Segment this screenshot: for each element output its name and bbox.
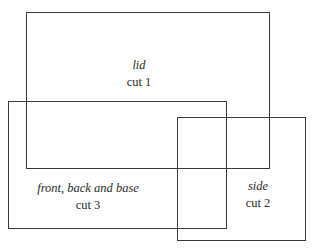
front-back-base-name: front, back and base — [37, 180, 139, 197]
lid-name: lid — [127, 57, 152, 74]
lid-label: lid cut 1 — [127, 57, 152, 91]
side-rectangle — [177, 117, 306, 241]
side-label: side cut 2 — [246, 178, 271, 212]
lid-cut: cut 1 — [127, 74, 152, 91]
front-back-base-cut: cut 3 — [37, 197, 139, 214]
front-back-base-label: front, back and base cut 3 — [37, 180, 139, 214]
side-cut: cut 2 — [246, 195, 271, 212]
side-name: side — [246, 178, 271, 195]
